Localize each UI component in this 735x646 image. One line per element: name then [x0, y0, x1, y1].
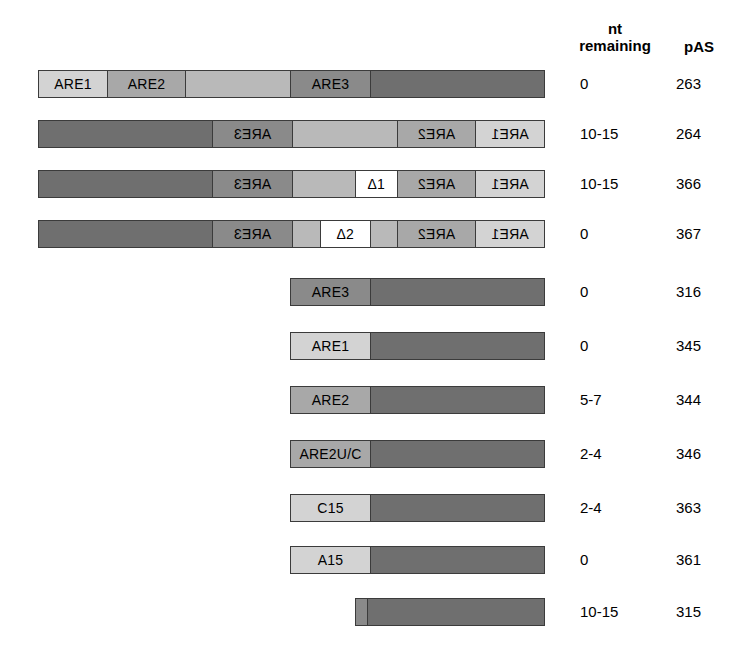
segment-are1: ARE1 — [475, 171, 544, 197]
construct-row: ARE1ARE2Δ2ARE30367 — [0, 220, 735, 250]
nt-remaining-value: 2-4 — [580, 494, 670, 522]
segment-label: ARE3 — [312, 285, 349, 299]
segment-label: ARE1 — [491, 127, 528, 141]
construct-row: ARE2U/C2-4346 — [0, 440, 735, 470]
segment-spacer — [371, 441, 545, 467]
construct-row: ARE25-7344 — [0, 386, 735, 416]
pas-value: 345 — [676, 332, 732, 360]
segment-label: ARE1 — [54, 77, 91, 91]
segment-label: Δ2 — [337, 227, 355, 241]
construct-row: C152-4363 — [0, 494, 735, 524]
construct-diagram-figure: nt remaining pAS ARE1ARE2ARE30263ARE1ARE… — [0, 0, 735, 646]
column-header-pas: pAS — [672, 38, 726, 55]
segment-label: ARE1 — [491, 227, 528, 241]
segment-2: Δ2 — [320, 221, 370, 247]
segment-c15: C15 — [291, 495, 371, 521]
nt-remaining-value: 10-15 — [580, 598, 670, 626]
segment-are2: ARE2 — [397, 171, 475, 197]
nt-remaining-value: 0 — [580, 278, 670, 306]
construct-row: A150361 — [0, 546, 735, 576]
segment-spacer — [371, 387, 545, 413]
column-header-nt-line2: remaining — [560, 37, 670, 54]
nt-remaining-value: 10-15 — [580, 120, 670, 148]
segment-are1: ARE1 — [475, 121, 544, 147]
construct-row: ARE1ARE2ARE310-15264 — [0, 120, 735, 150]
construct-bar-pas264: ARE1ARE2ARE3 — [38, 120, 545, 148]
column-header-nt-line1: nt — [560, 20, 670, 37]
segment-spacer — [371, 333, 545, 359]
pas-value: 316 — [676, 278, 732, 306]
segment-are3: ARE3 — [212, 221, 292, 247]
pas-value: 315 — [676, 598, 732, 626]
segment-are3: ARE3 — [212, 171, 292, 197]
segment-label: ARE2 — [128, 77, 165, 91]
segment-label: ARE2 — [418, 227, 455, 241]
segment-are3: ARE3 — [291, 279, 371, 305]
nt-remaining-value: 10-15 — [580, 170, 670, 198]
segment-spacer — [371, 495, 545, 521]
pas-value: 263 — [676, 70, 732, 98]
construct-row: ARE10345 — [0, 332, 735, 362]
segment-spacer — [38, 221, 212, 247]
construct-bar-pas263: ARE1ARE2ARE3 — [38, 70, 545, 98]
construct-row: 10-15315 — [0, 598, 735, 628]
construct-row: ARE1ARE2ARE30263 — [0, 70, 735, 100]
segment-are2u-c: ARE2U/C — [291, 441, 371, 467]
segment-spacer — [356, 599, 368, 625]
column-header-nt-remaining: nt remaining — [560, 20, 670, 54]
construct-bar-pas315 — [355, 598, 545, 626]
construct-bar-pas363: C15 — [290, 494, 545, 522]
nt-remaining-value: 0 — [580, 220, 670, 248]
segment-label: Δ1 — [368, 177, 386, 191]
segment-are2: ARE2 — [397, 221, 475, 247]
segment-spacer — [292, 171, 355, 197]
segment-label: ARE3 — [312, 77, 349, 91]
pas-value: 344 — [676, 386, 732, 414]
segment-are3: ARE3 — [291, 71, 371, 97]
segment-label: ARE3 — [234, 227, 271, 241]
segment-spacer — [292, 221, 320, 247]
nt-remaining-value: 0 — [580, 70, 670, 98]
pas-value: 264 — [676, 120, 732, 148]
nt-remaining-value: 0 — [580, 332, 670, 360]
segment-spacer — [38, 121, 212, 147]
segment-are2: ARE2 — [291, 387, 371, 413]
pas-value: 346 — [676, 440, 732, 468]
segment-spacer — [38, 171, 212, 197]
segment-a15: A15 — [291, 547, 371, 573]
segment-label: C15 — [317, 501, 343, 515]
construct-bar-pas366: ARE1ARE2Δ1ARE3 — [38, 170, 545, 198]
segment-spacer — [371, 279, 545, 305]
segment-spacer — [370, 221, 397, 247]
pas-value: 363 — [676, 494, 732, 522]
segment-spacer — [292, 121, 397, 147]
segment-spacer — [371, 71, 545, 97]
segment-are3: ARE3 — [212, 121, 292, 147]
pas-value: 366 — [676, 170, 732, 198]
segment-are1: ARE1 — [291, 333, 371, 359]
segment-label: ARE2 — [312, 393, 349, 407]
construct-row: ARE1ARE2Δ1ARE310-15366 — [0, 170, 735, 200]
segment-label: ARE1 — [491, 177, 528, 191]
segment-spacer — [186, 71, 291, 97]
segment-are2: ARE2 — [108, 71, 186, 97]
construct-bar-pas316: ARE3 — [290, 278, 545, 306]
construct-bar-pas346: ARE2U/C — [290, 440, 545, 468]
nt-remaining-value: 5-7 — [580, 386, 670, 414]
segment-label: A15 — [318, 553, 344, 567]
segment-are1: ARE1 — [39, 71, 108, 97]
pas-value: 361 — [676, 546, 732, 574]
construct-bar-pas345: ARE1 — [290, 332, 545, 360]
segment-label: ARE3 — [234, 177, 271, 191]
segment-are1: ARE1 — [475, 221, 544, 247]
nt-remaining-value: 2-4 — [580, 440, 670, 468]
nt-remaining-value: 0 — [580, 546, 670, 574]
segment-spacer — [368, 599, 545, 625]
segment-1: Δ1 — [355, 171, 397, 197]
segment-label: ARE3 — [234, 127, 271, 141]
construct-bar-pas344: ARE2 — [290, 386, 545, 414]
segment-label: ARE2 — [418, 177, 455, 191]
construct-bar-pas367: ARE1ARE2Δ2ARE3 — [38, 220, 545, 248]
segment-label: ARE1 — [312, 339, 349, 353]
segment-label: ARE2U/C — [299, 447, 361, 461]
